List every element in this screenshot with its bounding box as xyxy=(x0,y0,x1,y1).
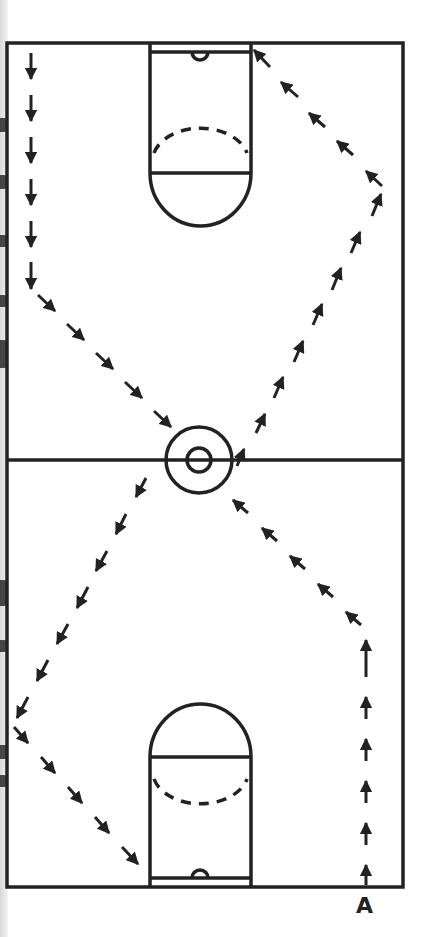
bottom-dashed-arc xyxy=(154,779,247,804)
bottom-free-throw-circle xyxy=(150,704,251,757)
top-dashed-arc xyxy=(154,128,247,153)
court-lines xyxy=(7,43,403,887)
top-lane xyxy=(150,43,251,226)
court-diagram xyxy=(0,0,431,937)
drill-path xyxy=(14,50,382,885)
court-boundary xyxy=(7,43,403,887)
player-a-label: A xyxy=(356,893,373,918)
top-free-throw-circle xyxy=(150,173,251,226)
bottom-lane xyxy=(150,704,251,887)
